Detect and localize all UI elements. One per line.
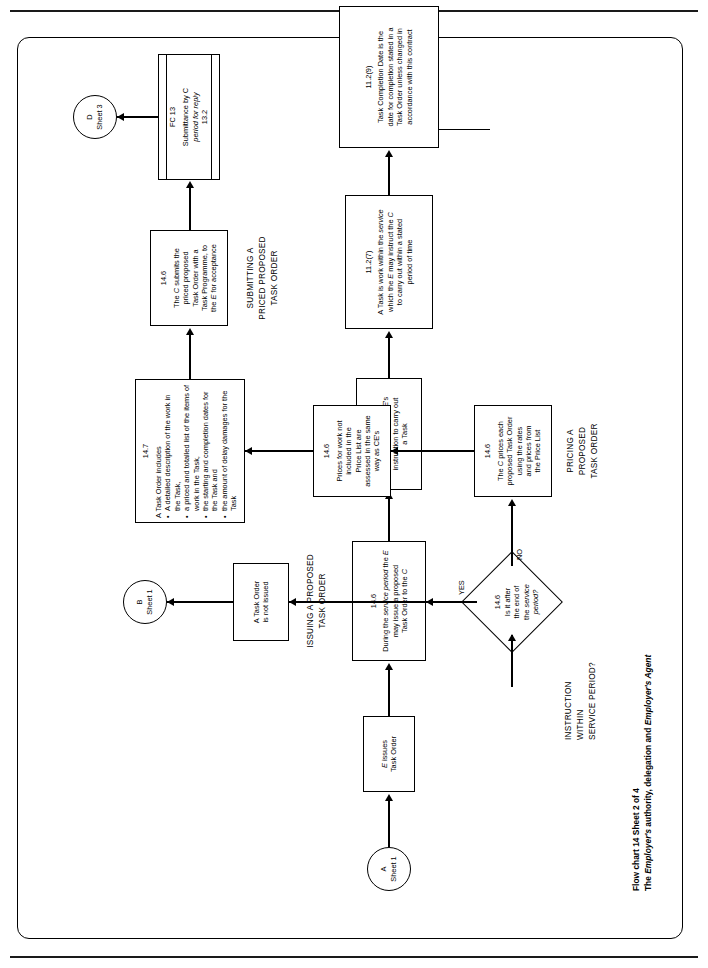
arrowhead-fc13-to-d <box>117 113 124 121</box>
node-cl-11-2-9: 11.2(9) Task Completion Date is the date… <box>339 6 439 148</box>
edge-146issue-to-1128 <box>388 497 389 541</box>
node-fc-13: FC 13 Submittance by C period for reply … <box>158 54 220 180</box>
sheet-caption: Flow chart 14 Sheet 2 of 4The Employer's… <box>631 471 655 891</box>
node-task-order-not-issued-body: A Task Order is not issued <box>252 581 271 624</box>
edge-left-into-decision <box>511 635 512 687</box>
edge-1127-to-1129 <box>388 155 389 195</box>
node-fc-13-line1: Submittance by C <box>181 88 191 146</box>
arrowhead-1127-to-1129 <box>385 150 393 157</box>
arrowhead-146notlisted-to-147 <box>245 447 252 455</box>
connector-b-id: B <box>135 600 145 605</box>
node-cl-14-7: 14.7 A Task Order includes A detailed de… <box>135 379 245 523</box>
connector-d-id: D <box>85 114 95 119</box>
connector-b-sheet: Sheet 1 <box>145 589 155 614</box>
section-label-pricing: PRICING A PROPOSED TASK ORDER <box>565 399 601 503</box>
sheet-caption-line1: Flow chart 14 Sheet 2 of 4 <box>631 788 641 891</box>
connector-a-sheet: Sheet 1 <box>389 856 399 881</box>
arrowhead-147-to-146submits <box>186 328 194 335</box>
decision-text: Is it after the end of the service perio… <box>503 564 541 640</box>
page-rule-bottom <box>10 956 698 958</box>
arrowhead-yes-to-notissued <box>289 598 296 606</box>
arrowhead-no-to-146prices <box>508 499 516 506</box>
node-cl-14-7-bullet-1: A detailed description of the work in th… <box>163 384 182 511</box>
connector-a-id: A <box>379 867 389 872</box>
section-label-instruction-within: INSTRUCTION WITHIN SERVICE PERIOD? <box>563 620 599 740</box>
decision-no-label: NO <box>515 549 524 560</box>
node-cl-14-6-prices: 14.6 The C prices each proposed Task Ord… <box>474 405 552 497</box>
edge-1129-stub-v <box>438 129 490 130</box>
node-cl-11-2-9-ref: 11.2(9) <box>364 66 373 89</box>
node-cl-14-7-bullet-4: the amount of delay damages for the Task <box>220 384 239 511</box>
node-cl-11-2-7: 11.2(7) A Task is work within the servic… <box>345 195 433 329</box>
node-task-order-not-issued: A Task Order is not issued <box>233 563 289 641</box>
node-fc-13-line3: 13.2 <box>200 110 210 124</box>
edge-146notlisted-to-147 <box>245 450 313 451</box>
edge-decision-no <box>511 504 512 566</box>
edge-147-to-146submits <box>189 333 190 379</box>
node-e-issues-task-order: E issues Task Order <box>363 716 415 792</box>
node-cl-14-7-ref: 14.7 <box>141 444 150 458</box>
node-fc-13-line2: period for reply <box>191 92 201 141</box>
arrowhead-a-to-eissues <box>385 794 393 801</box>
node-cl-11-2-7-ref: 11.2(7) <box>364 251 373 274</box>
node-cl-14-6-submits: 14.6 The C submits the priced proposed T… <box>150 230 228 326</box>
arrowhead-146submits-to-fc13 <box>186 181 194 188</box>
edge-1129-stub-h <box>438 13 439 129</box>
node-cl-14-7-intro: A Task Order includes <box>154 446 163 518</box>
node-cl-14-6-notlisted-ref: 14.6 <box>322 444 331 458</box>
node-cl-14-7-bullets: A detailed description of the work in th… <box>163 384 239 518</box>
arrowhead-notissued-to-b <box>167 598 174 606</box>
edge-decision-yes <box>453 601 477 602</box>
decision-yes-label: YES <box>457 580 466 595</box>
arrowhead-eissues-to-146issue <box>385 663 393 670</box>
edge-146prices-to-146notlisted <box>391 450 474 451</box>
decision-ref: 14.6 <box>493 564 502 640</box>
node-cl-14-6-prices-ref: 14.6 <box>483 444 492 458</box>
connector-a: A Sheet 1 <box>367 847 411 891</box>
edge-eissues-to-146issue <box>388 668 389 716</box>
edge-1128-to-1127 <box>388 336 389 378</box>
edge-146submits-to-fc13 <box>189 186 190 230</box>
connector-d-sheet: Sheet 3 <box>95 104 105 129</box>
section-label-submitting: SUBMITTING A PRICED PROPOSED TASK ORDER <box>245 220 281 336</box>
node-cl-14-6-notlisted: 14.6 Prices for work not included in the… <box>313 405 391 497</box>
node-cl-11-2-9-body: Task Completion Date is the date for com… <box>376 28 414 127</box>
node-cl-14-7-bullet-2: a priced and totalled list of the items … <box>182 384 201 511</box>
arrowhead-146prices-to-146notlisted <box>391 447 398 455</box>
sheet-caption-line2: The Employer's authority, delegation and… <box>643 655 653 891</box>
arrowhead-left-into-decision <box>508 634 516 641</box>
connector-b: B Sheet 1 <box>123 580 167 624</box>
node-cl-14-7-bullet-3: the starting and completion dates for th… <box>201 384 220 511</box>
flowchart-canvas: A Sheet 1 E issues Task Order 14.6 Durin… <box>17 37 681 937</box>
arrowhead-1128-to-1127 <box>385 331 393 338</box>
edge-a-to-eissues <box>388 799 389 847</box>
edge-notissued-to-b <box>167 601 233 602</box>
edge-yes-to-notissued <box>289 601 453 602</box>
node-cl-14-6-submits-ref: 14.6 <box>159 271 168 285</box>
node-fc-13-ref: FC 13 <box>168 107 178 127</box>
connector-d: D Sheet 3 <box>73 95 117 139</box>
